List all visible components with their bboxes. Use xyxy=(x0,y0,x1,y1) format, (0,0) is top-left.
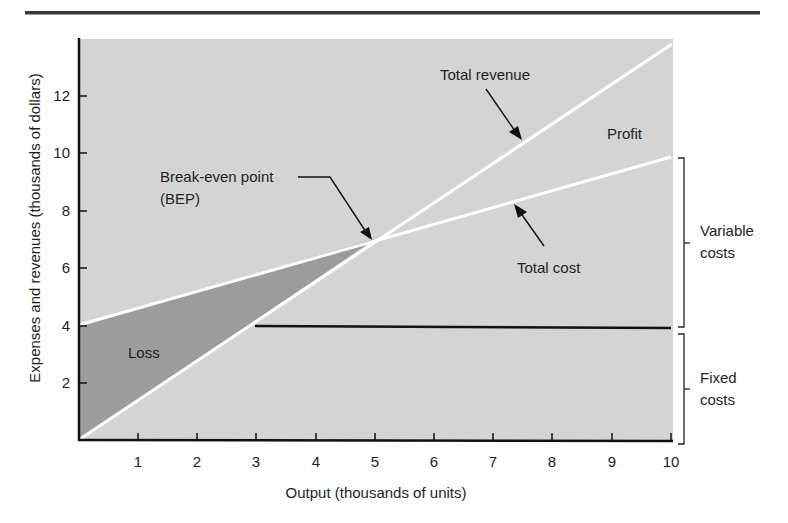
profit-label: Profit xyxy=(607,125,643,142)
x-tick-label: 5 xyxy=(371,453,379,470)
bep-label: Break-even point xyxy=(160,168,274,185)
x-tick-label: 1 xyxy=(134,453,142,470)
y-tick-label: 10 xyxy=(53,144,70,161)
x-tick-label: 9 xyxy=(608,453,616,470)
fixed-costs-bracket xyxy=(678,334,684,444)
total-revenue-label: Total revenue xyxy=(440,66,530,83)
top-rule xyxy=(25,11,760,15)
variable-costs-bracket xyxy=(678,158,684,327)
x-tick-label: 10 xyxy=(663,453,680,470)
total-cost-label: Total cost xyxy=(517,259,581,276)
y-tick-label: 8 xyxy=(62,202,70,219)
x-tick-label: 6 xyxy=(430,453,438,470)
x-tick-label: 4 xyxy=(312,453,320,470)
x-axis xyxy=(78,440,673,441)
y-tick-label: 2 xyxy=(62,374,70,391)
x-tick-label: 7 xyxy=(489,453,497,470)
variable-costs-label-2: costs xyxy=(700,244,735,261)
bep-label-abbr: (BEP) xyxy=(160,190,200,207)
y-tick-label: 6 xyxy=(62,259,70,276)
x-tick-label: 8 xyxy=(548,453,556,470)
loss-label: Loss xyxy=(128,344,160,361)
x-tick-label: 2 xyxy=(193,453,201,470)
x-tick-label: 3 xyxy=(252,453,260,470)
y-tick-label: 12 xyxy=(53,87,70,104)
y-axis-label: Expenses and revenues (thousands of doll… xyxy=(26,73,43,382)
x-axis-label: Output (thousands of units) xyxy=(286,484,467,501)
fixed-costs-label: Fixed xyxy=(700,369,737,386)
fixed-costs-label-2: costs xyxy=(700,391,735,408)
variable-costs-label: Variable xyxy=(700,222,754,239)
y-tick-label: 4 xyxy=(62,317,70,334)
break-even-chart: 2 4 6 8 10 12 1 2 3 4 5 6 7 8 9 10 Outpu… xyxy=(0,0,788,523)
